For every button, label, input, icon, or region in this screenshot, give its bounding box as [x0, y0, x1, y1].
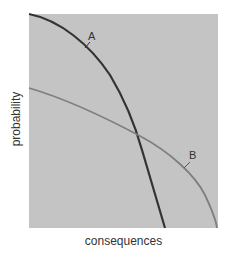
y-axis-label: probability [9, 89, 23, 149]
curve-a-label: A [88, 30, 96, 42]
curve-b-label: B [189, 149, 196, 161]
x-axis-label: consequences [29, 234, 218, 248]
plot-area [29, 14, 218, 228]
chart-canvas: A B [0, 0, 232, 256]
risk-curve-chart: A B probability consequences [0, 0, 232, 256]
